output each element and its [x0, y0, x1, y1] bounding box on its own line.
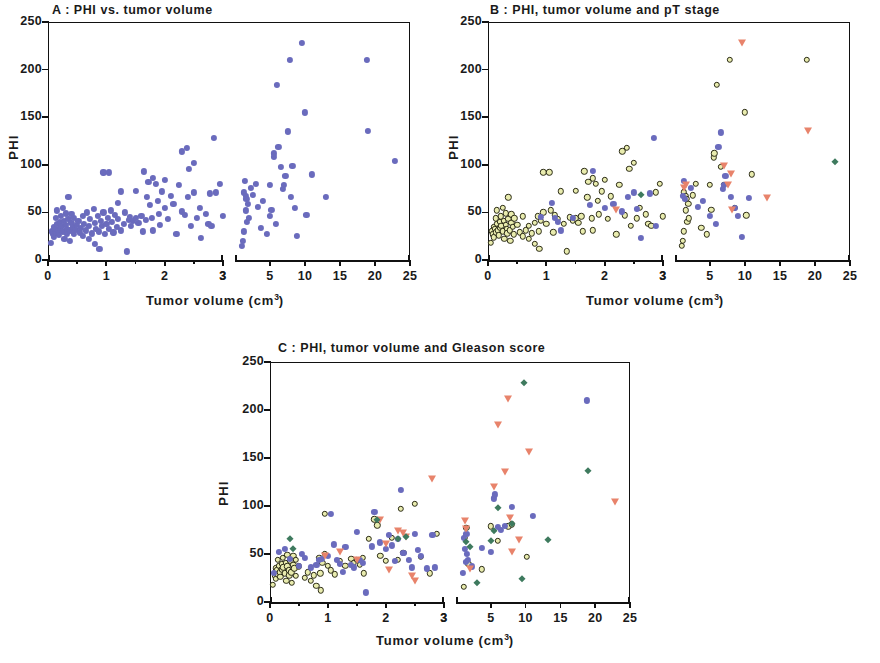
y-axis-tick-label: 50: [4, 204, 42, 218]
x-axis-tick-label: 2: [151, 269, 179, 283]
x-axis-tick: [744, 260, 746, 266]
x-axis-tick-label: 5: [696, 269, 724, 283]
y-axis-tick: [482, 69, 489, 71]
y-axis-tick: [42, 21, 49, 23]
y-axis-tick-label: 0: [4, 252, 42, 266]
x-axis-tick: [594, 602, 596, 608]
panel-a-scatter: A : PHI vs. tumor volume PHI Tumor volum…: [0, 0, 440, 330]
x-label-close: ): [719, 293, 724, 308]
x-axis-minor-tick: [356, 602, 358, 606]
plot-frame: [48, 22, 410, 260]
y-axis-tick-label: 100: [444, 157, 482, 171]
panel-b-x-axis-label: Tumor volume (cm3): [500, 292, 810, 308]
x-axis-tick-label: 2: [372, 611, 400, 625]
x-axis-tick: [327, 602, 329, 608]
x-axis-tick-label: 25: [836, 269, 864, 283]
x-axis-tick-label: 20: [801, 269, 829, 283]
x-axis-tick-label: 2: [591, 269, 619, 283]
x-axis-minor-tick: [414, 602, 416, 606]
y-axis-tick-label: 100: [4, 157, 42, 171]
y-axis-tick: [482, 164, 489, 166]
x-axis-tick: [339, 260, 341, 266]
y-axis-tick-label: 200: [4, 62, 42, 76]
x-axis-tick: [164, 260, 166, 266]
panel-b-title: B : PHI, tumor volume and pT stage: [490, 3, 720, 17]
x-axis-minor-tick: [76, 260, 78, 264]
x-axis-tick: [374, 260, 376, 266]
y-axis-tick: [264, 409, 271, 411]
y-axis-tick-label: 150: [4, 109, 42, 123]
y-axis-tick: [42, 212, 49, 214]
x-axis-tick: [814, 260, 816, 266]
x-axis-minor-tick: [575, 260, 577, 264]
x-axis-tick: [269, 260, 271, 266]
y-axis-tick: [264, 361, 271, 363]
x-axis-tick-label: 3: [649, 269, 677, 283]
x-axis-tick: [604, 260, 606, 266]
panel-c-x-axis-label: Tumor volume (cm3): [280, 632, 610, 648]
y-axis-tick: [482, 21, 489, 23]
x-axis-tick: [662, 260, 664, 266]
y-axis-tick-label: 0: [226, 594, 264, 608]
y-axis-tick: [482, 212, 489, 214]
y-axis-tick-label: 100: [226, 498, 264, 512]
x-axis-tick: [849, 260, 851, 266]
x-axis-tick: [385, 602, 387, 608]
x-axis-tick-label: 20: [581, 611, 609, 625]
y-axis-tick-label: 0: [444, 252, 482, 266]
x-axis-tick: [105, 260, 107, 266]
x-axis-end-cap: [456, 597, 458, 603]
x-axis-tick-label: 25: [396, 269, 424, 283]
x-axis-tick-label: 0: [256, 611, 284, 625]
x-axis-minor-tick: [298, 602, 300, 606]
x-axis-end-cap: [235, 255, 237, 261]
x-axis-tick-label: 5: [256, 269, 284, 283]
x-axis-tick: [487, 260, 489, 266]
x-axis-tick: [269, 602, 271, 608]
y-axis-tick-label: 250: [226, 354, 264, 368]
x-label-text: Tumor volume (cm: [376, 633, 504, 648]
y-axis-tick-label: 50: [444, 204, 482, 218]
x-axis-tick-label: 3: [430, 611, 458, 625]
x-axis-tick: [222, 260, 224, 266]
x-axis-tick: [779, 260, 781, 266]
x-axis-tick: [409, 260, 411, 266]
y-axis-tick: [264, 457, 271, 459]
y-axis-tick-label: 250: [444, 14, 482, 28]
panel-c-title: C : PHI, tumor volume and Gleason score: [278, 341, 545, 355]
x-axis-tick-label: 20: [361, 269, 389, 283]
x-axis-tick-label: 15: [546, 611, 574, 625]
x-axis-tick-label: 5: [477, 611, 505, 625]
x-axis-minor-tick: [633, 260, 635, 264]
x-axis-line: [456, 602, 630, 604]
y-axis-tick-label: 200: [444, 62, 482, 76]
x-axis-minor-tick: [516, 260, 518, 264]
x-axis-tick-label: 0: [34, 269, 62, 283]
y-axis-tick: [264, 553, 271, 555]
x-axis-tick-label: 15: [326, 269, 354, 283]
x-axis-tick: [560, 602, 562, 608]
x-axis-tick-label: 1: [532, 269, 560, 283]
x-axis-end-cap: [675, 255, 677, 261]
panel-b-scatter: B : PHI, tumor volume and pT stage PHI T…: [440, 0, 880, 330]
x-axis-tick: [629, 602, 631, 608]
y-axis-tick-label: 150: [226, 450, 264, 464]
y-axis-tick: [42, 164, 49, 166]
y-axis-tick-label: 250: [4, 14, 42, 28]
x-axis-tick-label: 15: [766, 269, 794, 283]
x-label-text: Tumor volume (cm: [146, 293, 274, 308]
y-axis-tick: [42, 69, 49, 71]
x-axis-tick-label: 0: [474, 269, 502, 283]
x-axis-tick: [47, 260, 49, 266]
x-axis-tick-label: 10: [291, 269, 319, 283]
x-axis-tick-label: 25: [616, 611, 644, 625]
y-axis-tick-label: 150: [444, 109, 482, 123]
x-axis-tick: [443, 602, 445, 608]
panel-a-x-axis-label: Tumor volume (cm3): [60, 292, 370, 308]
y-axis-tick: [482, 116, 489, 118]
x-axis-tick: [709, 260, 711, 266]
x-axis-tick: [545, 260, 547, 266]
x-axis-minor-tick: [193, 260, 195, 264]
y-axis-tick-label: 50: [226, 546, 264, 560]
x-axis-line: [675, 260, 850, 262]
